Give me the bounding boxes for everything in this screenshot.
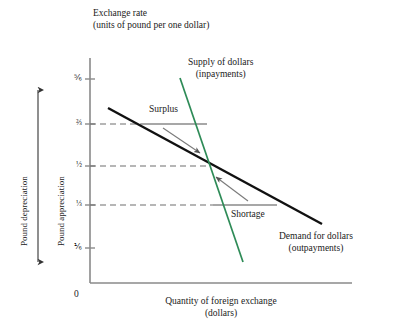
- origin-label: 0: [74, 289, 79, 299]
- demand-for-dollars-label: Demand for dollars (outpayments): [279, 231, 353, 254]
- y-axis-title-line2: (units of pound per one dollar): [93, 20, 209, 32]
- diagram-vector-layer: [0, 0, 405, 332]
- supply-of-dollars-label: Supply of dollars (inpayments): [188, 57, 253, 80]
- surplus-label: Surplus: [149, 104, 178, 114]
- demand-label-line1: Demand for dollars: [279, 231, 353, 243]
- diagram-canvas: Exchange rate (units of pound per one do…: [0, 0, 405, 332]
- tick-label-five-sixths: ⅚: [68, 73, 82, 82]
- x-axis-title: Quantity of foreign exchange (dollars): [111, 296, 331, 319]
- x-axis-title-line1: Quantity of foreign exchange: [111, 296, 331, 308]
- tick-label-two-thirds: ⅔: [68, 118, 82, 127]
- x-axis-title-line2: (dollars): [111, 308, 331, 320]
- dashed-gridlines: [90, 124, 213, 205]
- tick-label-one-third: ⅓: [68, 199, 82, 208]
- y-axis-title-line1: Exchange rate: [93, 8, 209, 20]
- supply-label-line1: Supply of dollars: [188, 57, 253, 69]
- tick-label-one-half: ½: [68, 160, 82, 169]
- supply-label-line2: (inpayments): [188, 69, 253, 81]
- demand-label-line2: (outpayments): [279, 243, 353, 255]
- pound-depreciation-label: Pound depreciation: [19, 176, 29, 246]
- supply-of-dollars-curve: [180, 78, 243, 262]
- tick-label-one-sixth: ⅙: [68, 242, 82, 251]
- shortage-label: Shortage: [231, 209, 265, 219]
- y-axis-title: Exchange rate (units of pound per one do…: [93, 8, 209, 31]
- pound-appreciation-label: Pound appreciation: [56, 176, 66, 246]
